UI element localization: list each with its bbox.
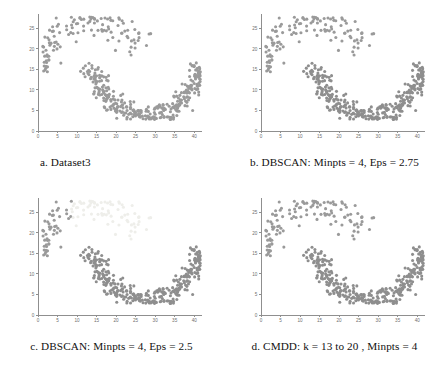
svg-text:5: 5 xyxy=(255,292,258,297)
svg-text:0: 0 xyxy=(37,134,40,139)
svg-text:35: 35 xyxy=(172,318,178,323)
figure-container: 05101520253035400510152025 a. Dataset3 0… xyxy=(0,0,446,368)
svg-text:0: 0 xyxy=(32,313,35,318)
svg-text:25: 25 xyxy=(356,134,362,139)
svg-text:25: 25 xyxy=(133,318,139,323)
scatter-plot-d: 05101520253035400510152025 xyxy=(249,194,429,327)
panel-a: 05101520253035400510152025 a. Dataset3 xyxy=(0,0,223,184)
svg-text:25: 25 xyxy=(29,210,35,215)
svg-text:25: 25 xyxy=(133,134,139,139)
svg-text:30: 30 xyxy=(376,318,382,323)
svg-text:5: 5 xyxy=(56,134,59,139)
svg-text:10: 10 xyxy=(74,134,80,139)
svg-text:0: 0 xyxy=(255,129,258,134)
svg-text:15: 15 xyxy=(252,251,258,256)
plot-area-c: 05101520253035400510152025 xyxy=(26,194,206,327)
svg-text:10: 10 xyxy=(297,134,303,139)
svg-text:0: 0 xyxy=(32,129,35,134)
svg-text:35: 35 xyxy=(172,134,178,139)
svg-text:25: 25 xyxy=(29,26,35,31)
svg-text:0: 0 xyxy=(260,318,263,323)
panel-caption-c: c. DBSCAN: Minpts = 4, Eps = 2.5 xyxy=(0,340,223,352)
panel-caption-d: d. CMDD: k = 13 to 20 , Minpts = 4 xyxy=(223,340,446,352)
svg-text:10: 10 xyxy=(297,318,303,323)
svg-text:15: 15 xyxy=(252,67,258,72)
svg-text:30: 30 xyxy=(376,134,382,139)
svg-text:30: 30 xyxy=(153,134,159,139)
svg-text:0: 0 xyxy=(37,318,40,323)
svg-text:40: 40 xyxy=(415,318,421,323)
scatter-plot-b: 05101520253035400510152025 xyxy=(249,10,429,143)
plot-area-a: 05101520253035400510152025 xyxy=(26,10,206,143)
svg-text:5: 5 xyxy=(32,108,35,113)
svg-text:40: 40 xyxy=(192,134,198,139)
svg-text:20: 20 xyxy=(252,231,258,236)
svg-text:25: 25 xyxy=(252,26,258,31)
svg-text:10: 10 xyxy=(252,88,258,93)
svg-text:40: 40 xyxy=(192,318,198,323)
svg-text:15: 15 xyxy=(317,134,323,139)
svg-text:20: 20 xyxy=(29,47,35,52)
svg-text:25: 25 xyxy=(252,210,258,215)
svg-text:10: 10 xyxy=(74,318,80,323)
svg-text:20: 20 xyxy=(337,318,343,323)
svg-text:20: 20 xyxy=(252,47,258,52)
svg-text:40: 40 xyxy=(415,134,421,139)
scatter-plot-a: 05101520253035400510152025 xyxy=(26,10,206,143)
scatter-plot-c: 05101520253035400510152025 xyxy=(26,194,206,327)
svg-text:15: 15 xyxy=(94,318,100,323)
svg-text:35: 35 xyxy=(395,134,401,139)
svg-text:20: 20 xyxy=(337,134,343,139)
svg-text:35: 35 xyxy=(395,318,401,323)
svg-text:15: 15 xyxy=(94,134,100,139)
svg-text:15: 15 xyxy=(29,251,35,256)
svg-text:0: 0 xyxy=(255,313,258,318)
svg-text:10: 10 xyxy=(29,272,35,277)
svg-text:5: 5 xyxy=(255,108,258,113)
svg-text:5: 5 xyxy=(279,134,282,139)
panel-caption-b: b. DBSCAN: Minpts = 4, Eps = 2.75 xyxy=(223,156,446,168)
svg-text:15: 15 xyxy=(317,318,323,323)
panel-d: 05101520253035400510152025 d. CMDD: k = … xyxy=(223,184,446,368)
svg-text:20: 20 xyxy=(114,134,120,139)
svg-text:20: 20 xyxy=(114,318,120,323)
plot-area-d: 05101520253035400510152025 xyxy=(249,194,429,327)
panel-b: 05101520253035400510152025 b. DBSCAN: Mi… xyxy=(223,0,446,184)
svg-text:0: 0 xyxy=(260,134,263,139)
svg-text:20: 20 xyxy=(29,231,35,236)
panel-c: 05101520253035400510152025 c. DBSCAN: Mi… xyxy=(0,184,223,368)
svg-text:15: 15 xyxy=(29,67,35,72)
svg-text:10: 10 xyxy=(29,88,35,93)
svg-text:30: 30 xyxy=(153,318,159,323)
svg-text:5: 5 xyxy=(56,318,59,323)
svg-text:25: 25 xyxy=(356,318,362,323)
svg-text:5: 5 xyxy=(279,318,282,323)
svg-text:5: 5 xyxy=(32,292,35,297)
svg-text:10: 10 xyxy=(252,272,258,277)
plot-area-b: 05101520253035400510152025 xyxy=(249,10,429,143)
